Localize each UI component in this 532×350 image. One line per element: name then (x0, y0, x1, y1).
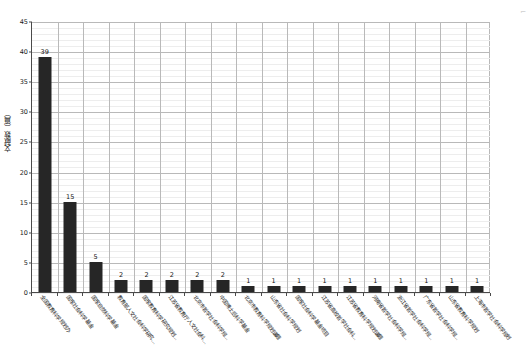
bar-cell: 1 (312, 22, 337, 292)
bar[interactable] (369, 286, 382, 292)
bar[interactable] (293, 286, 306, 292)
bar-value-label: 1 (322, 277, 326, 285)
bar[interactable] (38, 57, 51, 292)
bar[interactable] (420, 286, 433, 292)
bar[interactable] (89, 262, 102, 292)
bar[interactable] (445, 286, 458, 292)
bar[interactable] (115, 280, 128, 292)
bar-cell: 1 (286, 22, 311, 292)
bar-chart: 文献数（篇） 051015202530354045 39155222221111… (0, 0, 532, 350)
scan-artifact-mark: ⌐ (520, 8, 526, 16)
plot-area: 051015202530354045 39155222221111111111 (31, 22, 490, 293)
bar-value-label: 1 (450, 277, 454, 285)
bar[interactable] (140, 280, 153, 292)
bar-cell: 1 (414, 22, 439, 292)
bar-value-label: 2 (195, 271, 199, 279)
bar-cell: 2 (210, 22, 235, 292)
bar-value-label: 1 (475, 277, 479, 285)
bar-cell: 2 (108, 22, 133, 292)
x-tick-mark (490, 293, 491, 296)
x-axis-category-label: 国家自然科学基金 (91, 294, 120, 329)
bar-cell: 1 (439, 22, 464, 292)
bar-series: 39155222221111111111 (32, 22, 490, 292)
bar-value-label: 2 (119, 271, 123, 279)
y-axis-title: 文献数（篇） (4, 110, 18, 152)
bar-value-label: 2 (170, 271, 174, 279)
bar-cell: 2 (134, 22, 159, 292)
bar-value-label: 1 (348, 277, 352, 285)
bar-value-label: 1 (399, 277, 403, 285)
bar[interactable] (165, 280, 178, 292)
bar-value-label: 1 (272, 277, 276, 285)
bar[interactable] (267, 286, 280, 292)
bar-value-label: 2 (221, 271, 225, 279)
bar-value-label: 1 (373, 277, 377, 285)
bar-cell: 1 (388, 22, 413, 292)
bar[interactable] (318, 286, 331, 292)
bar[interactable] (216, 280, 229, 292)
bar-cell: 1 (261, 22, 286, 292)
bar-value-label: 1 (424, 277, 428, 285)
bar[interactable] (343, 286, 356, 292)
x-axis-category-label: 国家社会科学基金 (65, 294, 94, 329)
bar-value-label: 15 (66, 193, 74, 201)
bar-cell: 39 (32, 22, 57, 292)
bar-cell: 1 (236, 22, 261, 292)
bar-cell: 5 (83, 22, 108, 292)
bar-value-label: 1 (246, 277, 250, 285)
bar[interactable] (191, 280, 204, 292)
bar-value-label: 2 (144, 271, 148, 279)
bar-cell: 1 (337, 22, 362, 292)
bar-cell: 2 (185, 22, 210, 292)
bar[interactable] (242, 286, 255, 292)
bar[interactable] (471, 286, 484, 292)
bar-value-label: 39 (41, 48, 49, 56)
bar-cell: 1 (464, 22, 489, 292)
bar[interactable] (64, 202, 77, 292)
bar-cell: 15 (57, 22, 82, 292)
bar-value-label: 1 (297, 277, 301, 285)
bar[interactable] (394, 286, 407, 292)
bar-value-label: 5 (94, 253, 98, 261)
bar-cell: 1 (363, 22, 388, 292)
bar-cell: 2 (159, 22, 184, 292)
x-axis-labels: 全国教育科学规划办国家社会科学基金国家自然科学基金教育部人文社会科学研究…国家教… (31, 294, 490, 350)
x-axis-category-label: 上海市哲学社会科学规划 (473, 294, 512, 341)
